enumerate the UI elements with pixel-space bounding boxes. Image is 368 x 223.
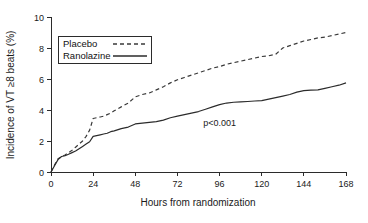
pvalue-annotation: p<0.001 — [203, 118, 236, 128]
y-axis-ticks: 0246810 — [34, 13, 51, 178]
x-tick-label: 144 — [296, 179, 311, 189]
x-tick-label: 168 — [338, 179, 353, 189]
y-tick-label: 0 — [39, 168, 44, 178]
y-tick-label: 6 — [39, 75, 44, 85]
chart-plot-area: 0246810 024487296120144168 p<0.001 Hours… — [0, 0, 368, 223]
series-line-ranolazine — [51, 83, 346, 172]
chart-figure: 0246810 024487296120144168 p<0.001 Hours… — [0, 0, 368, 223]
y-tick-label: 10 — [34, 13, 44, 23]
x-axis-title: Hours from randomization — [140, 197, 255, 208]
y-tick-label: 4 — [39, 106, 44, 116]
x-tick-label: 48 — [130, 179, 140, 189]
y-tick-label: 8 — [39, 44, 44, 54]
x-axis-ticks: 024487296120144168 — [48, 172, 353, 189]
x-tick-label: 96 — [215, 179, 225, 189]
x-tick-label: 0 — [48, 179, 53, 189]
legend-label-placebo: Placebo — [63, 38, 97, 49]
y-axis-title: Incidence of VT ≥8 beats (%) — [5, 31, 16, 160]
x-tick-label: 120 — [254, 179, 269, 189]
y-tick-label: 2 — [39, 137, 44, 147]
x-tick-label: 72 — [172, 179, 182, 189]
legend: Placebo Ranolazine — [58, 36, 151, 63]
x-tick-label: 24 — [88, 179, 98, 189]
legend-label-ranolazine: Ranolazine — [63, 50, 111, 61]
